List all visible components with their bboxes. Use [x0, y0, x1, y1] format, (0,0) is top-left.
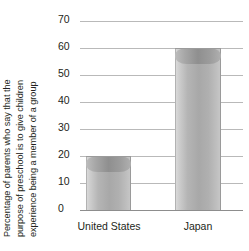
bar-top-edge-united-states — [86, 156, 131, 157]
y-axis-title-line-1: Percentage of parents who say that the — [2, 80, 12, 237]
bar-cap-united-states — [86, 156, 131, 172]
x-category-label-japan: Japan — [168, 220, 228, 232]
bar-chart-figure: Percentage of parents who say that the p… — [0, 0, 249, 251]
y-axis-title-line-2: purpose of preschool is to give children — [15, 80, 25, 237]
gridline-0 — [80, 210, 243, 211]
y-axis-title-line-3: experience being a member of a group — [28, 82, 38, 238]
bar-body-japan — [175, 48, 221, 210]
bar-top-edge-japan — [175, 48, 221, 49]
y-axis-title: Percentage of parents who say that the p… — [0, 0, 58, 251]
y-tick-label-50: 50 — [58, 68, 80, 79]
bar-body-united-states — [86, 156, 131, 210]
y-tick-label-40: 40 — [58, 95, 80, 106]
gridline-70 — [80, 21, 243, 22]
y-tick-label-60: 60 — [58, 41, 80, 52]
bar-united-states — [86, 156, 131, 210]
y-tick-label-70: 70 — [58, 14, 80, 25]
y-tick-label-0: 0 — [58, 203, 80, 214]
bar-cap-japan — [175, 48, 221, 64]
x-category-label-united-states: United States — [64, 220, 154, 232]
y-tick-label-10: 10 — [58, 176, 80, 187]
y-tick-label-30: 30 — [58, 122, 80, 133]
y-tick-label-20: 20 — [58, 149, 80, 160]
bar-japan — [175, 48, 221, 210]
plot-area: 70 60 50 40 30 20 10 0 United States Jap… — [58, 8, 249, 251]
